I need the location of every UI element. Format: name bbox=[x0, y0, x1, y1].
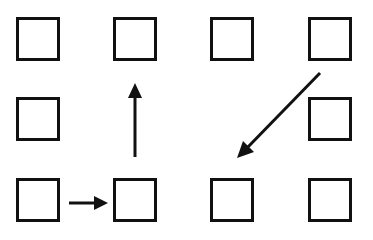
arrow-right-icon bbox=[69, 196, 108, 210]
arrow-diagonal-icon bbox=[237, 73, 320, 158]
arrows-layer bbox=[0, 0, 373, 240]
arrow-up-icon bbox=[128, 83, 142, 157]
